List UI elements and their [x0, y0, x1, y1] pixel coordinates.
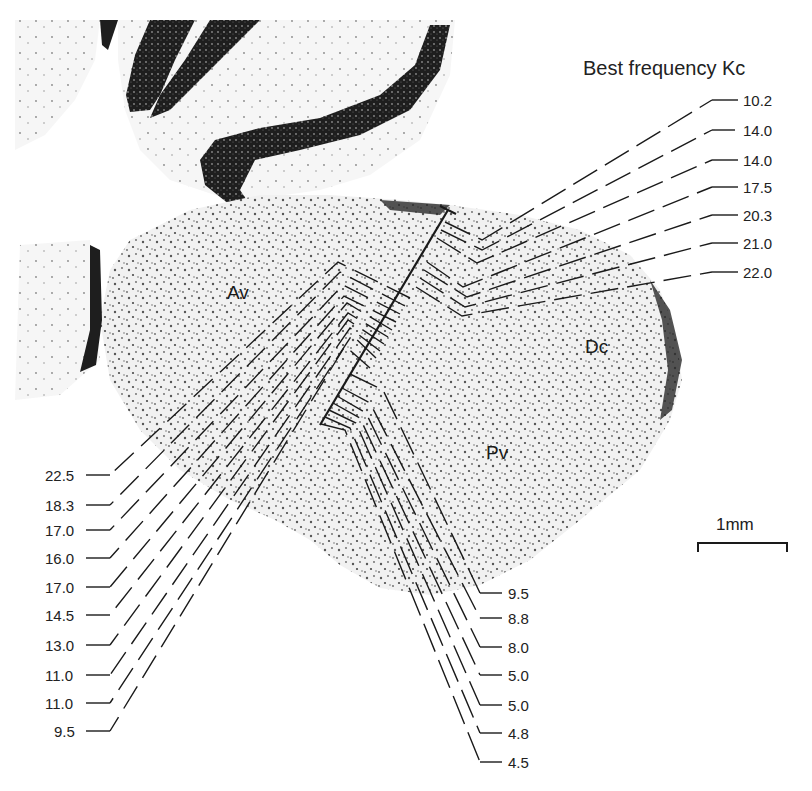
upper-right-label: 17.5 — [743, 180, 772, 195]
left-label: 13.0 — [45, 638, 74, 653]
scale-bar — [698, 543, 787, 552]
left-label: 22.5 — [45, 468, 74, 483]
upper-right-label: 14.0 — [743, 153, 772, 168]
lower-right-label: 9.5 — [508, 586, 529, 601]
region-label-dc: Dc — [585, 337, 608, 356]
lower-right-label: 4.5 — [508, 755, 529, 770]
histology-figure — [0, 0, 812, 791]
left-label: 18.3 — [45, 498, 74, 513]
left-label: 9.5 — [54, 724, 75, 739]
upper-right-label: 22.0 — [743, 265, 772, 280]
left-label: 14.5 — [45, 608, 74, 623]
lower-right-label: 5.0 — [508, 668, 529, 683]
left-label: 17.0 — [45, 580, 74, 595]
lower-right-label-ticks — [480, 593, 502, 762]
lower-right-label: 4.8 — [508, 726, 529, 741]
left-label-ticks — [86, 475, 110, 731]
lower-right-label: 8.0 — [508, 640, 529, 655]
region-label-av: Av — [227, 283, 249, 302]
upper-right-label: 20.3 — [743, 208, 772, 223]
left-label: 17.0 — [45, 523, 74, 538]
lower-right-label: 5.0 — [508, 698, 529, 713]
lower-right-label: 8.8 — [508, 611, 529, 626]
left-label: 11.0 — [45, 668, 73, 683]
left-label: 16.0 — [45, 551, 74, 566]
upper-right-label: 10.2 — [743, 93, 772, 108]
upper-right-label-ticks — [712, 100, 738, 272]
region-label-pv: Pv — [486, 443, 508, 462]
upper-right-label: 21.0 — [743, 236, 772, 251]
left-label: 11.0 — [45, 696, 73, 711]
figure-title: Best frequency Kc — [583, 58, 745, 78]
upper-right-label: 14.0 — [743, 123, 772, 138]
medial-geniculate-tissue — [15, 195, 682, 595]
scale-bar-label: 1mm — [716, 516, 754, 533]
cerebellum-tissue — [15, 20, 455, 205]
